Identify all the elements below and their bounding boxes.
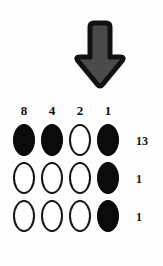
table-row: 13 [13,124,150,162]
diagram-canvas: 8 4 2 1 13 1 1 [0,0,163,266]
arrow-down-icon [74,19,126,89]
bit-ellipse-filled [13,124,35,156]
bit-cell-r3c2[interactable] [69,200,91,232]
bit-ellipse-filled [41,124,63,156]
column-header-4: 4 [41,103,63,119]
bit-ellipse-empty [69,162,91,194]
bit-cell-r2c1[interactable] [97,162,119,194]
bit-ellipse-empty [13,200,35,232]
column-header-1: 1 [97,103,119,119]
bit-ellipse-filled [97,124,119,156]
bit-cell-r2c4[interactable] [41,162,63,194]
bit-ellipse-empty [41,162,63,194]
row-total-3: 1 [136,210,142,224]
bit-cell-r1c1[interactable] [97,124,119,156]
bit-ellipse-empty [69,200,91,232]
bit-cell-r1c4[interactable] [41,124,63,156]
table-row: 1 [13,162,150,200]
bit-ellipse-empty [41,200,63,232]
bit-cell-r2c2[interactable] [69,162,91,194]
bit-ellipse-filled [97,162,119,194]
bit-cell-r1c8[interactable] [13,124,35,156]
bit-ellipse-empty [13,162,35,194]
column-header-2: 2 [69,103,91,119]
bit-cell-r3c4[interactable] [41,200,63,232]
table-row: 1 [13,200,150,238]
bit-cell-r3c8[interactable] [13,200,35,232]
column-header-8: 8 [13,103,35,119]
bit-cell-r1c2[interactable] [69,124,91,156]
row-total-1: 13 [136,134,148,148]
bit-grid: 8 4 2 1 13 1 1 [13,103,150,238]
bit-ellipse-filled [97,200,119,232]
bit-cell-r3c1[interactable] [97,200,119,232]
bit-cell-r2c8[interactable] [13,162,35,194]
row-total-2: 1 [136,172,142,186]
column-header-row: 8 4 2 1 [13,103,150,124]
bit-ellipse-empty [69,124,91,156]
